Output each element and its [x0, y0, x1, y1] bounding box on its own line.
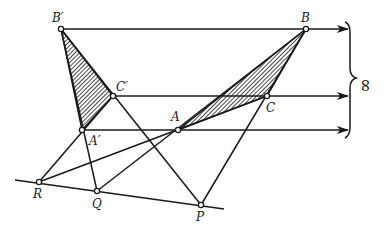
line-c-prime-a-prime-r: [39, 96, 113, 182]
point-c-prime: [110, 93, 115, 98]
label-q: Q: [92, 197, 102, 211]
point-a-prime: [79, 127, 84, 132]
point-q: [94, 188, 99, 193]
label-a-prime: A′: [88, 134, 101, 148]
point-b: [303, 26, 308, 31]
label-p: P: [195, 210, 205, 224]
label-c-prime: C′: [116, 80, 128, 94]
label-b-prime: B′: [51, 11, 64, 25]
label-b: B: [300, 11, 310, 25]
point-c: [264, 93, 269, 98]
label-r: R: [32, 187, 42, 201]
triangle-a-prime-b-prime-c-prime: [61, 29, 113, 130]
point-p: [198, 202, 203, 207]
line-c-a-r: [39, 96, 267, 182]
label-c: C: [266, 101, 275, 115]
point-a: [175, 127, 180, 132]
label-a: A: [170, 110, 180, 124]
brace-icon: [345, 22, 356, 138]
line-b-c-p: [201, 29, 306, 205]
point-b-prime: [58, 26, 63, 31]
point-r: [36, 179, 41, 184]
infinity-label: ∞: [356, 78, 377, 93]
desargues-diagram: B′ B C′ C A′ A R Q P ∞: [0, 0, 384, 230]
